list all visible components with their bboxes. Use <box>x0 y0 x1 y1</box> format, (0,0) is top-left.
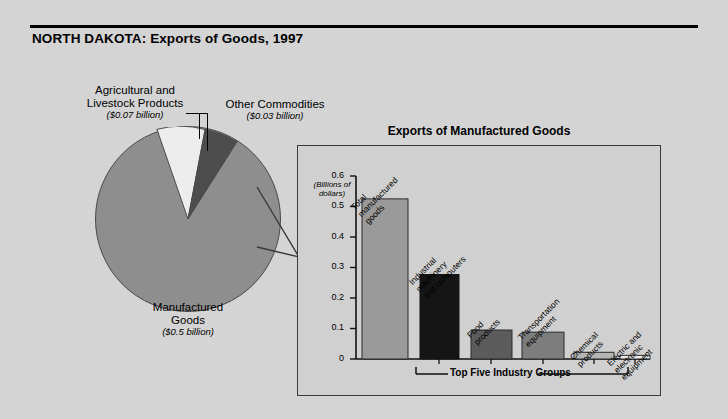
inset-title: Exports of Manufactured Goods <box>297 124 661 138</box>
page-title: NORTH DAKOTA: Exports of Goods, 1997 <box>32 31 303 46</box>
bracket-label: Top Five Industry Groups <box>450 367 571 378</box>
pie-label-agricultural-value: ($0.07 billion) <box>55 110 215 121</box>
pie-label-manufactured: Manufactured Goods ($0.5 billion) <box>110 301 266 337</box>
leader-line-agricultural-vertical <box>199 113 200 139</box>
ytick-0_5: 0.5 <box>318 200 344 210</box>
y-axis-unit-line1: (Billions of <box>302 180 362 189</box>
ytick-0_3: 0.3 <box>318 261 344 271</box>
figure-root: NORTH DAKOTA: Exports of Goods, 1997 Agr… <box>0 0 728 419</box>
pie-label-other: Other Commodities ($0.03 billion) <box>205 98 345 122</box>
pie-label-agricultural: Agricultural and Livestock Products ($0.… <box>55 84 215 120</box>
y-axis-unit-note: (Billions of dollars) <box>302 180 362 198</box>
pie-slices <box>96 127 280 311</box>
y-axis-unit-line2: dollars) <box>302 189 362 198</box>
pie-chart <box>95 126 281 312</box>
title-rule <box>30 25 698 28</box>
pie-label-other-value: ($0.03 billion) <box>205 111 345 122</box>
leader-line-other-vertical <box>207 113 208 151</box>
pie-label-manufactured-value: ($0.5 billion) <box>110 327 266 338</box>
pie-label-agricultural-line1: Agricultural and <box>55 84 215 97</box>
pie-label-manufactured-line2: Goods <box>110 314 266 327</box>
ytick-0_6: 0.6 <box>318 170 344 180</box>
ytick-0_4: 0.4 <box>318 231 344 241</box>
pie-label-agricultural-line2: Livestock Products <box>55 97 215 110</box>
pie-body <box>95 126 281 312</box>
pie-label-other-line1: Other Commodities <box>205 98 345 111</box>
ytick-0: 0 <box>318 353 344 363</box>
ytick-0_1: 0.1 <box>318 322 344 332</box>
pie-label-manufactured-line1: Manufactured <box>110 301 266 314</box>
ytick-0_2: 0.2 <box>318 292 344 302</box>
